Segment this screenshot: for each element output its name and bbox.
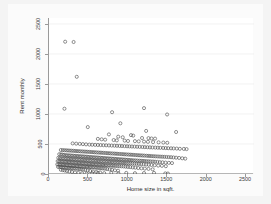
data-point bbox=[75, 75, 78, 78]
data-point bbox=[150, 137, 153, 140]
x-tick-mark bbox=[245, 174, 246, 177]
data-point bbox=[133, 140, 136, 143]
data-point bbox=[181, 157, 184, 160]
data-point-group bbox=[56, 40, 188, 174]
data-point bbox=[133, 172, 136, 174]
data-point bbox=[103, 172, 106, 174]
y-tick-label-text: 1000 bbox=[35, 108, 41, 120]
plot-area bbox=[48, 18, 253, 174]
y-tick-label-text: 2500 bbox=[35, 18, 41, 30]
y-tick-label: 2000 bbox=[8, 51, 44, 57]
y-tick-mark bbox=[45, 84, 48, 85]
data-point bbox=[111, 111, 114, 114]
y-tick-label: 0 bbox=[8, 171, 44, 177]
data-point bbox=[75, 142, 78, 145]
data-point bbox=[117, 135, 120, 138]
data-point bbox=[63, 107, 66, 110]
data-point bbox=[146, 140, 149, 143]
x-tick-mark bbox=[166, 174, 167, 177]
data-point bbox=[72, 40, 75, 43]
y-tick-label-text: 1500 bbox=[35, 78, 41, 90]
y-tick-mark bbox=[45, 114, 48, 115]
data-point bbox=[170, 162, 173, 165]
data-point bbox=[184, 157, 187, 160]
y-tick-mark bbox=[45, 144, 48, 145]
scatter-plot-figure: Rent monthly 05001000150020002500 050010… bbox=[0, 0, 271, 204]
y-tick-label: 1500 bbox=[8, 81, 44, 87]
data-point bbox=[115, 139, 118, 142]
data-point bbox=[151, 168, 154, 171]
data-point bbox=[166, 113, 169, 116]
graph-region: Rent monthly 05001000150020002500 050010… bbox=[8, 4, 263, 196]
data-point bbox=[112, 138, 115, 141]
data-point bbox=[157, 141, 160, 144]
data-point bbox=[147, 137, 150, 140]
scatter-canvas bbox=[49, 18, 254, 174]
y-tick-label-text: 2000 bbox=[35, 48, 41, 60]
data-point bbox=[85, 143, 88, 146]
data-point bbox=[132, 134, 135, 137]
data-point bbox=[77, 171, 80, 174]
data-point bbox=[157, 164, 160, 167]
x-axis-title: Home size in sqft. bbox=[48, 186, 253, 192]
data-point bbox=[154, 137, 157, 140]
gridline-group bbox=[49, 24, 254, 174]
y-tick-label: 500 bbox=[8, 141, 44, 147]
data-point bbox=[71, 142, 74, 145]
data-point bbox=[137, 166, 140, 169]
data-point bbox=[164, 165, 167, 168]
x-tick-mark bbox=[127, 174, 128, 177]
data-point bbox=[110, 171, 113, 174]
data-point bbox=[104, 138, 107, 141]
data-point bbox=[126, 139, 129, 142]
y-tick-label: 2500 bbox=[8, 21, 44, 27]
data-point bbox=[119, 122, 122, 125]
data-point bbox=[121, 136, 124, 139]
data-point bbox=[86, 126, 89, 129]
y-tick-mark bbox=[45, 174, 48, 175]
x-tick-mark bbox=[48, 174, 49, 177]
y-tick-label-text: 500 bbox=[37, 140, 43, 149]
data-point bbox=[142, 140, 145, 143]
data-point bbox=[137, 140, 140, 143]
data-point bbox=[100, 138, 103, 141]
data-point bbox=[147, 167, 150, 170]
data-point bbox=[145, 129, 148, 132]
x-tick-mark bbox=[87, 174, 88, 177]
y-tick-mark bbox=[45, 24, 48, 25]
data-point bbox=[142, 107, 145, 110]
data-point bbox=[123, 139, 126, 142]
data-point bbox=[160, 164, 163, 167]
data-point bbox=[96, 137, 99, 140]
data-point bbox=[175, 130, 178, 133]
data-point bbox=[162, 141, 165, 144]
data-point bbox=[178, 156, 181, 159]
data-point bbox=[64, 40, 67, 43]
data-point bbox=[73, 171, 76, 174]
data-point bbox=[178, 147, 181, 150]
y-tick-label: 1000 bbox=[8, 111, 44, 117]
data-point bbox=[152, 171, 155, 174]
x-tick-mark bbox=[206, 174, 207, 177]
data-point bbox=[153, 164, 156, 167]
data-point bbox=[164, 161, 167, 164]
data-point bbox=[175, 147, 178, 150]
data-point bbox=[142, 171, 145, 174]
data-point bbox=[140, 167, 143, 170]
data-point bbox=[143, 167, 146, 170]
data-point bbox=[107, 133, 110, 136]
data-point bbox=[152, 141, 155, 144]
data-point bbox=[167, 161, 170, 164]
data-point bbox=[140, 136, 143, 139]
y-tick-mark bbox=[45, 54, 48, 55]
